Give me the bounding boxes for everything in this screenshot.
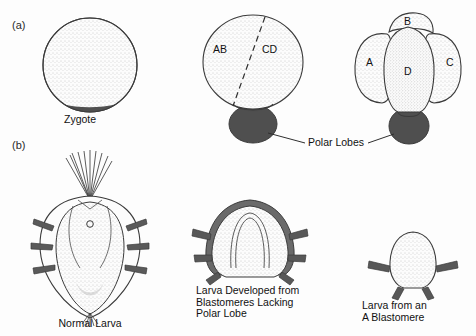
normal-larva-diagram	[31, 150, 149, 327]
a-blastomere-larva-diagram	[368, 232, 458, 300]
a-blastomere-larva-caption: Larva from an A Blastomere	[362, 300, 427, 323]
leader-line-left	[268, 133, 305, 143]
panel-label-a: (a)	[12, 20, 25, 32]
cell-label-a: A	[366, 57, 373, 69]
cell-label-c: C	[446, 57, 454, 69]
cell-label-ab: AB	[213, 44, 227, 56]
panel-label-b: (b)	[12, 140, 25, 152]
two-cell-body	[203, 15, 303, 109]
cell-label-cd: CD	[262, 44, 277, 56]
zygote-diagram	[40, 18, 140, 118]
cell-label-d: D	[404, 66, 412, 78]
two-cell-embryo	[203, 15, 303, 143]
zygote-caption: Zygote	[64, 114, 96, 126]
cell-label-b: B	[404, 16, 411, 28]
polar-lobes-label: Polar Lobes	[308, 137, 364, 149]
apical-tuft-icon	[66, 150, 112, 200]
leader-line-right	[368, 134, 394, 143]
lobeless-larva-caption: Larva Developed from Blastomeres Lacking…	[196, 285, 299, 320]
four-cell-embryo	[355, 13, 461, 144]
lobeless-larva-diagram	[192, 200, 308, 285]
panel-a-group	[40, 13, 461, 144]
normal-larva-caption: Normal Larva	[40, 318, 140, 330]
a-larva-body	[390, 232, 436, 288]
